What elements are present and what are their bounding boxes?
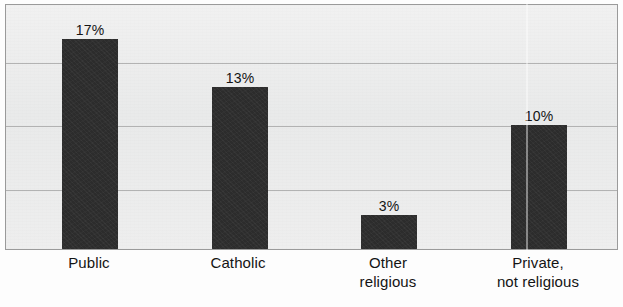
value-label-other-religious: 3% xyxy=(359,198,419,214)
category-label-catholic: Catholic xyxy=(163,253,313,272)
category-axis: Public Catholic Other religious Private,… xyxy=(5,253,618,305)
value-label-public: 17% xyxy=(60,22,120,38)
category-label-public: Public xyxy=(14,253,164,272)
bar-catholic xyxy=(212,87,268,249)
value-label-private-not-religious: 10% xyxy=(509,108,569,124)
plot-area: 17% 13% 3% 10% xyxy=(5,4,618,250)
category-label-catholic-line-1: Catholic xyxy=(163,253,313,272)
category-label-private-not-religious-line-2: not religious xyxy=(463,272,613,291)
bar-public xyxy=(62,39,118,249)
category-label-other-religious: Other religious xyxy=(313,253,463,291)
bar-chart-figure: 17% 13% 3% 10% Public Catholic Other rel… xyxy=(0,0,623,307)
bar-other-religious xyxy=(361,215,417,249)
bar-private-not-religious xyxy=(511,125,567,249)
category-label-other-religious-line-1: Other xyxy=(313,253,463,272)
value-label-catholic: 13% xyxy=(210,70,270,86)
category-label-public-line-1: Public xyxy=(14,253,164,272)
category-label-private-not-religious: Private, not religious xyxy=(463,253,613,291)
category-label-other-religious-line-2: religious xyxy=(313,272,463,291)
category-label-private-not-religious-line-1: Private, xyxy=(463,253,613,272)
